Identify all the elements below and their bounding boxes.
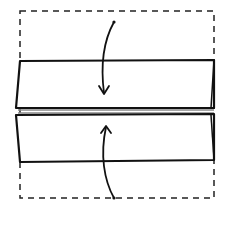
origami-fold-diagram [0,0,231,226]
top-flap [16,60,214,108]
bottom-flap [16,114,214,162]
